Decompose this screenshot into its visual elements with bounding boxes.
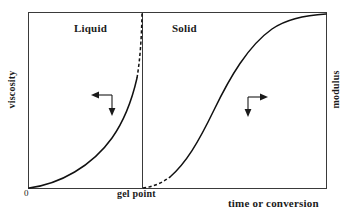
y-axis-label-right: modulus <box>330 60 341 120</box>
plot-frame <box>29 13 327 189</box>
region-label-liquid: Liquid <box>74 22 107 34</box>
axis-marker-origin: 0 <box>24 188 29 198</box>
x-axis-label: time or conversion <box>228 197 319 209</box>
region-label-solid: Solid <box>172 22 197 34</box>
axis-marker-gel-point: gel point <box>117 188 156 199</box>
y-axis-label-left: viscosity <box>6 60 17 120</box>
